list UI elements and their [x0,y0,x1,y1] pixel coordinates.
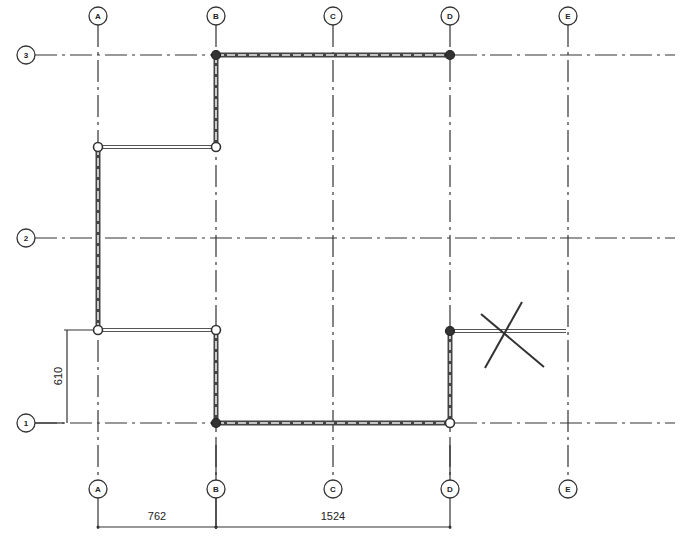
grid-bubble-label: C [330,12,336,21]
column-node [446,51,455,60]
dimension-610-label: 610 [52,367,64,385]
column-node [446,327,455,336]
grid-bubble-label: B [213,12,219,21]
column-node [212,143,221,152]
dimension-tick [449,526,452,529]
walls [98,55,450,423]
dimension-762-label: 762 [148,510,166,522]
cross-marker-line [485,302,522,368]
cross-marker [481,302,544,368]
grid-bubble-label: 2 [24,234,29,243]
beams [98,147,566,331]
grid-bubble-label: A [95,12,101,21]
grid-bubble-label: D [447,12,453,21]
grid-bubble-label: 1 [24,419,29,428]
grid-bubble-label: E [565,485,571,494]
grid-bubble-label: 3 [24,51,29,60]
grid-bubble-label: E [565,12,571,21]
column-node [212,326,221,335]
column-nodes [94,51,455,428]
column-node [212,51,221,60]
grid-lines [35,25,675,480]
grid-bubble-label: D [447,485,453,494]
dimension-tick [97,526,100,529]
floor-plan-drawing: AABBCCDDEE321 610 762 1524 [0,0,693,553]
column-node [212,419,221,428]
column-node [446,419,455,428]
grid-bubble-label: C [330,485,336,494]
column-node [94,326,103,335]
grid-bubble-label: A [95,485,101,494]
dimension-1524-label: 1524 [321,510,345,522]
dimension-tick [215,526,218,529]
column-node [94,143,103,152]
grid-bubble-label: B [213,485,219,494]
dimension-labels: 610 762 1524 [52,367,345,522]
drawing-canvas: AABBCCDDEE321 610 762 1524 [0,0,693,553]
